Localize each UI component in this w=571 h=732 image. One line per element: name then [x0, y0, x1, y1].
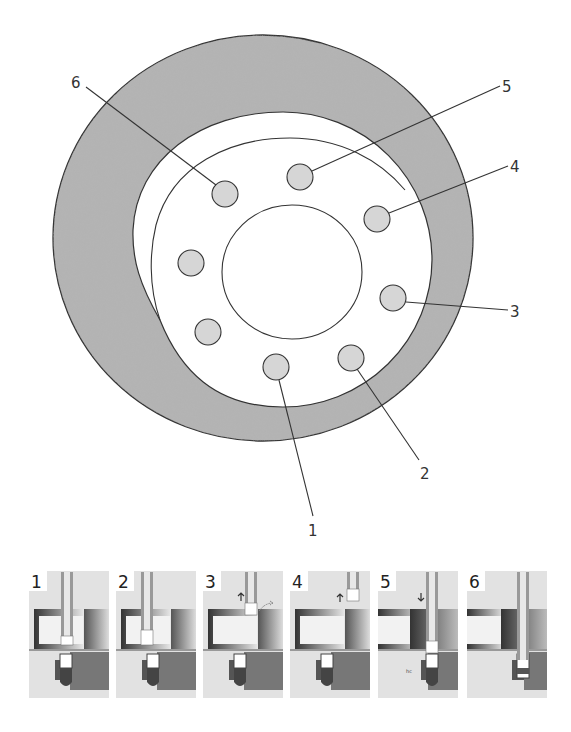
hole-3 [380, 285, 406, 311]
callout-2: 2 [420, 465, 430, 483]
step-5-note: hc [406, 668, 412, 674]
step-panel-1: 1 [29, 571, 109, 698]
center-hub [222, 205, 362, 339]
hole-1 [263, 354, 289, 380]
callout-3: 3 [510, 303, 520, 321]
callout-5: 5 [502, 78, 512, 96]
step-number-2: 2 [118, 572, 129, 592]
step-number-6: 6 [469, 572, 480, 592]
hole-left [178, 250, 204, 276]
carousel-diagram: 6 5 4 3 2 1 [0, 0, 571, 560]
hole-4 [364, 206, 390, 232]
hole-2 [338, 345, 364, 371]
step-number-5: 5 [380, 572, 391, 592]
step-number-4: 4 [292, 572, 303, 592]
hole-lower-left [195, 319, 221, 345]
step-panel-5: hc 5 [378, 571, 458, 698]
callout-4: 4 [510, 158, 520, 176]
step-panel-6: 6 [467, 571, 547, 698]
callout-1: 1 [308, 522, 318, 540]
step-panel-3: 3 [203, 571, 283, 698]
callout-6: 6 [71, 74, 81, 92]
step-number-1: 1 [31, 572, 42, 592]
hole-5 [287, 164, 313, 190]
step-panels: 1 2 3 [0, 560, 571, 710]
step-number-3: 3 [205, 572, 216, 592]
step-panel-4: 4 [290, 571, 370, 698]
step-panel-2: 2 [116, 571, 196, 698]
